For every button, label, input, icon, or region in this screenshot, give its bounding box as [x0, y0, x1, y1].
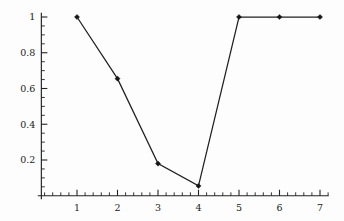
y-axis-tick-label: 0.6 [20, 83, 35, 94]
y-axis-tick-label: 0.2 [20, 154, 35, 165]
y-axis-tick-label: 0.4 [20, 119, 35, 130]
x-axis-tick-label: 6 [276, 202, 282, 213]
x-axis-tick-labels: 1234567 [74, 202, 323, 213]
data-point-marker [236, 14, 241, 19]
x-axis-tick-label: 2 [114, 202, 120, 213]
data-point-marker [277, 14, 282, 19]
x-axis-tick-label: 3 [155, 202, 161, 213]
y-axis-major-ticks [41, 17, 47, 160]
data-point-marker [155, 161, 160, 166]
x-axis-tick-label: 4 [195, 202, 201, 213]
line-chart: 10.80.60.40.2 1234567 [0, 0, 344, 221]
y-axis-tick-labels: 10.80.60.40.2 [20, 11, 35, 165]
x-axis-tick-label: 1 [74, 202, 80, 213]
y-axis-tick-label: 0.8 [20, 47, 35, 58]
x-axis-tick-label: 7 [317, 202, 323, 213]
x-axis-tick-label: 5 [236, 202, 242, 213]
data-point-marker [196, 183, 201, 188]
data-series-line [77, 17, 320, 186]
y-axis-tick-label: 1 [29, 11, 35, 22]
data-point-marker [317, 14, 322, 19]
x-axis-major-ticks [77, 190, 320, 196]
data-series-markers [74, 14, 322, 188]
plot-area: 10.80.60.40.2 1234567 [0, 0, 344, 221]
